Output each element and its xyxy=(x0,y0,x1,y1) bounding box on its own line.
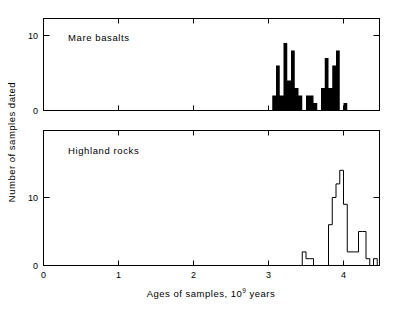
panel-bottom-ytick-label-0: 0 xyxy=(33,261,38,271)
x-axis-tick-labels: 0 1 2 3 4 xyxy=(41,270,346,280)
xtick-label-4: 4 xyxy=(341,270,346,280)
x-axis-title-years: years xyxy=(250,288,276,299)
y-axis-title: Number of samples dated xyxy=(6,82,17,202)
x-axis-title-main: Ages of samples, 10 xyxy=(147,288,243,299)
figure-container: 0 10 Mare basalts 0 10 xyxy=(0,0,402,309)
panel-highland-rocks: 0 10 Highland rocks xyxy=(28,131,380,272)
panel-top-ytick-label-0: 0 xyxy=(33,106,38,116)
panel-bottom-ytick-label-10: 10 xyxy=(28,193,38,203)
x-axis-title: Ages of samples, 109 years xyxy=(147,287,276,299)
xtick-label-3: 3 xyxy=(266,270,271,280)
panel-bottom-title: Highland rocks xyxy=(68,145,139,156)
xtick-label-0: 0 xyxy=(41,270,46,280)
panel-top-title: Mare basalts xyxy=(68,32,130,43)
highland-rocks-histogram xyxy=(302,170,377,265)
panel-mare-basalts: 0 10 Mare basalts xyxy=(28,19,380,117)
xtick-label-2: 2 xyxy=(191,270,196,280)
panel-top-ytick-label-10: 10 xyxy=(28,31,38,41)
mare-basalts-histogram xyxy=(272,43,347,111)
chart-svg: 0 10 Mare basalts 0 10 xyxy=(0,0,402,309)
xtick-label-1: 1 xyxy=(116,270,121,280)
